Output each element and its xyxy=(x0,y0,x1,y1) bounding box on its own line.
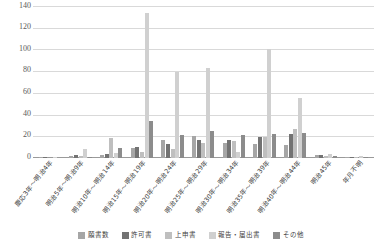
bar xyxy=(166,144,170,158)
bar xyxy=(328,154,332,158)
bar xyxy=(175,72,179,158)
legend-swatch xyxy=(209,232,216,239)
bar xyxy=(359,156,363,158)
bar xyxy=(192,136,196,158)
bar xyxy=(135,147,139,158)
y-tick-label: 100 xyxy=(3,45,31,53)
bar xyxy=(298,98,302,158)
legend-label: 上申書 xyxy=(175,232,196,239)
bar-group xyxy=(219,6,250,158)
bar xyxy=(293,129,297,158)
y-tick-label: 140 xyxy=(3,2,31,10)
bar xyxy=(232,141,236,158)
bar-group xyxy=(188,6,219,158)
bar-group xyxy=(127,6,158,158)
x-axis-labels: 慶応3年～明治4年明治5年～明治9年明治10年～明治14年明治15年～明治19年… xyxy=(33,159,374,217)
bar xyxy=(180,135,184,158)
legend-swatch xyxy=(78,232,85,239)
legend-swatch xyxy=(122,232,129,239)
bar xyxy=(350,157,354,158)
bar-chart: 140 120 100 80 60 40 20 0 慶応3年～明治4年明治5年～… xyxy=(0,0,382,246)
bar-group xyxy=(280,6,311,158)
bar xyxy=(272,134,276,158)
legend-swatch xyxy=(165,232,172,239)
bar-group xyxy=(249,6,280,158)
y-tick-label: 80 xyxy=(3,66,31,74)
bar-group xyxy=(66,6,97,158)
bar xyxy=(223,143,227,158)
bar xyxy=(171,149,175,158)
x-tick-label: 明治45年 xyxy=(309,159,333,186)
y-tick-label: 0 xyxy=(3,153,31,161)
legend-item[interactable]: その他 xyxy=(273,232,304,239)
bar xyxy=(88,157,92,158)
bar-group xyxy=(158,6,189,158)
bar xyxy=(149,121,153,158)
bar xyxy=(53,157,57,158)
bar xyxy=(319,155,323,158)
legend-label: 願書数 xyxy=(88,232,109,239)
bar xyxy=(114,153,118,158)
bar xyxy=(39,157,43,158)
bar xyxy=(289,134,293,158)
bar xyxy=(69,156,73,158)
bar xyxy=(201,143,205,158)
legend-item[interactable]: 上申書 xyxy=(165,232,196,239)
legend-label: 許可書 xyxy=(131,232,152,239)
bar xyxy=(324,156,328,158)
bar xyxy=(161,140,165,158)
bar xyxy=(131,148,135,158)
bar xyxy=(74,155,78,158)
bar xyxy=(118,148,122,158)
legend-label: 報告・届出書 xyxy=(218,232,260,239)
bar xyxy=(258,137,262,158)
chart-legend: 願書数許可書上申書報告・届出書その他 xyxy=(0,232,382,239)
bar xyxy=(206,68,210,158)
bar xyxy=(253,144,257,158)
bar xyxy=(267,49,271,158)
bar xyxy=(79,156,83,158)
bar-group xyxy=(311,6,342,158)
bar xyxy=(315,155,319,158)
bar xyxy=(236,152,240,159)
legend-item[interactable]: 願書数 xyxy=(78,232,109,239)
y-tick-label: 20 xyxy=(3,131,31,139)
bar-group xyxy=(35,6,66,158)
y-tick-label: 120 xyxy=(3,23,31,31)
bar-group xyxy=(341,6,372,158)
legend-label: その他 xyxy=(283,232,304,239)
legend-swatch xyxy=(273,232,280,239)
bar xyxy=(302,133,306,158)
bar xyxy=(105,154,109,158)
bar xyxy=(241,135,245,158)
bar xyxy=(263,137,267,158)
bar-group xyxy=(96,6,127,158)
x-tick-label: 年月不明 xyxy=(341,159,364,185)
y-tick-label: 40 xyxy=(3,110,31,118)
bar xyxy=(284,145,288,158)
bar xyxy=(43,157,47,158)
bar xyxy=(227,140,231,158)
bar xyxy=(333,156,337,158)
bar-groups xyxy=(33,6,374,158)
bar xyxy=(364,157,368,158)
bar xyxy=(197,140,201,158)
legend-item[interactable]: 報告・届出書 xyxy=(209,232,261,239)
y-tick-label: 60 xyxy=(3,88,31,96)
bar xyxy=(83,149,87,158)
bar xyxy=(145,13,149,158)
plot-area xyxy=(33,6,374,158)
bar xyxy=(345,157,349,158)
legend-item[interactable]: 許可書 xyxy=(122,232,153,239)
bar xyxy=(109,138,113,158)
bar xyxy=(210,131,214,158)
bar xyxy=(100,155,104,158)
